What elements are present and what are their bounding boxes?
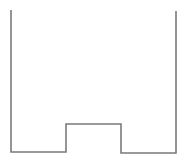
well-outline-line [11,10,176,153]
step-profile-diagram [0,0,186,164]
diagram-canvas [0,0,186,164]
